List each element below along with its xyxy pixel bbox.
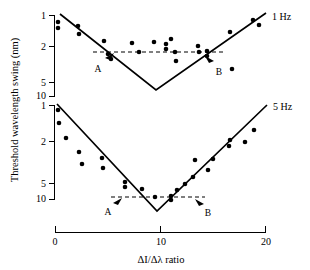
data-point — [169, 194, 174, 199]
data-point — [102, 39, 107, 44]
data-point — [174, 59, 179, 64]
data-point — [173, 50, 178, 55]
data-point — [251, 18, 256, 23]
data-point — [175, 188, 180, 193]
data-point — [169, 198, 174, 203]
panel-5hz-annotation-a: A — [105, 198, 122, 217]
data-point — [169, 37, 174, 42]
data-point — [228, 138, 233, 143]
y-axis-title-group: Threshold wavelength swing (nm) — [9, 37, 21, 182]
data-point — [130, 41, 135, 46]
panel-5hz-legend-label: 5 Hz — [273, 101, 293, 112]
data-point — [164, 47, 169, 52]
data-point — [206, 168, 211, 173]
figure-root: Threshold wavelength swing (nm) 1 2 5 10 — [0, 0, 310, 270]
panel-5hz-yticklabel-2: 2 — [41, 136, 46, 147]
panel-1hz-annotation-a-label: A — [95, 64, 102, 74]
data-point — [56, 26, 61, 31]
data-point — [227, 144, 232, 149]
x-ticklabel-10: 10 — [156, 236, 166, 247]
data-point — [77, 32, 82, 37]
x-ticklabel-0: 0 — [53, 236, 58, 247]
data-point — [80, 162, 85, 167]
data-point — [123, 180, 128, 185]
data-point — [77, 150, 82, 155]
data-point — [56, 20, 61, 25]
data-point — [228, 30, 233, 35]
panel-1hz-legend-label: 1 Hz — [272, 11, 292, 22]
panel-5hz: 1 2 5 10 — [36, 100, 293, 218]
data-point — [76, 24, 81, 29]
panel-1hz-points — [56, 18, 262, 72]
data-point — [164, 42, 169, 47]
data-point — [205, 49, 210, 54]
panel-1hz-annotation-a: A — [95, 53, 114, 74]
panel-5hz-annotation-b-label: B — [205, 208, 211, 218]
data-point — [191, 175, 196, 180]
data-point — [196, 44, 201, 49]
data-point — [211, 157, 216, 162]
panel-1hz-yticklabel-1: 1 — [41, 10, 46, 21]
data-point — [64, 136, 69, 141]
data-point — [123, 185, 128, 190]
x-axis-title: ΔI/Δλ ratio — [138, 254, 185, 265]
data-point — [197, 50, 202, 55]
data-point — [140, 187, 145, 192]
arrow-icon — [195, 199, 204, 206]
data-point — [56, 108, 61, 113]
x-ticklabel-20: 20 — [261, 236, 271, 247]
data-point — [252, 128, 257, 133]
panel-1hz-yticklabel-2: 2 — [41, 41, 46, 52]
data-point — [243, 140, 248, 145]
panel-5hz-points — [56, 108, 257, 203]
panel-1hz-y-axis: 1 2 5 10 — [36, 10, 55, 101]
data-point — [101, 166, 106, 171]
panel-5hz-yticklabel-5: 5 — [41, 178, 46, 189]
data-point — [230, 67, 235, 72]
y-axis-title: Threshold wavelength swing (nm) — [9, 37, 21, 182]
panel-5hz-annotation-b: B — [195, 199, 211, 218]
x-axis: 0 10 20 ΔI/Δλ ratio — [53, 227, 272, 266]
data-point — [100, 156, 105, 161]
data-point — [183, 182, 188, 187]
panel-1hz-yticklabel-5: 5 — [41, 77, 46, 88]
panel-5hz-annotation-a-label: A — [105, 207, 112, 217]
panel-1hz-annotation-b-label: B — [216, 67, 222, 77]
panel-1hz-annotation-b: B — [205, 56, 222, 77]
data-point — [152, 40, 157, 45]
threshold-wavelength-swing-chart: Threshold wavelength swing (nm) 1 2 5 10 — [0, 0, 310, 270]
data-point — [153, 195, 158, 200]
panel-1hz: 1 2 5 10 — [36, 10, 292, 101]
arrow-icon — [113, 198, 122, 205]
panel-5hz-yticklabel-1: 1 — [41, 100, 46, 111]
panel-5hz-yticklabel-10: 10 — [36, 193, 46, 204]
panel-5hz-fit-line — [57, 104, 267, 211]
data-point — [193, 158, 198, 163]
data-point — [137, 50, 142, 55]
data-point — [57, 121, 62, 126]
panel-5hz-y-axis: 1 2 5 10 — [36, 100, 55, 204]
data-point — [257, 23, 262, 28]
arrow-icon — [205, 56, 214, 63]
